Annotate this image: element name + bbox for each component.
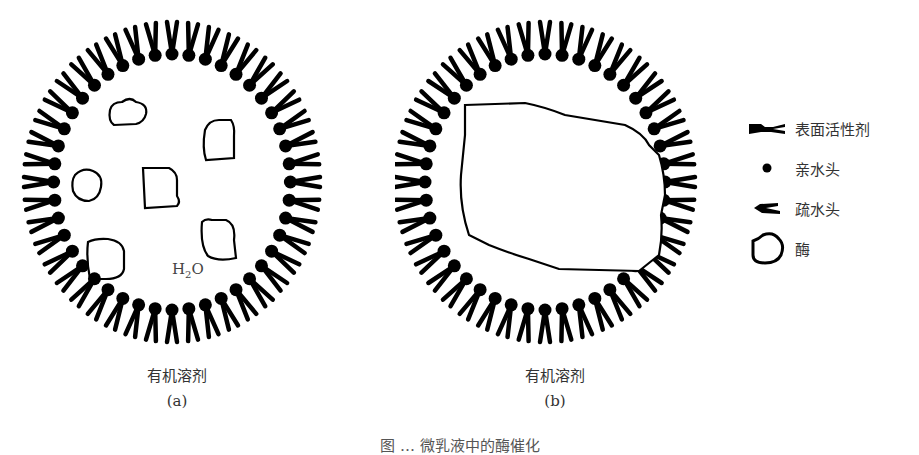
hydrophobic-tail-icon (188, 309, 189, 341)
panel-label-b: (b) (475, 392, 635, 410)
enzyme-icon (461, 103, 665, 271)
enzyme-icon (204, 120, 234, 160)
enzymes (72, 99, 236, 279)
legend-label: 酶 (795, 238, 810, 259)
reverse-micelle-b (395, 10, 715, 350)
legend: 表面活性剂 亲水头 疏水头 酶 (745, 108, 915, 268)
hydrophobic-tail-icon (745, 190, 789, 226)
surfactant-icon (745, 110, 789, 146)
hydrophobic-tail-icon (528, 23, 529, 55)
enzyme-icon (110, 99, 147, 125)
legend-item-surfactant: 表面活性剂 (745, 108, 915, 148)
legend-item-hydrophobic-tail: 疏水头 (745, 188, 915, 228)
hydrophobic-tail-icon (561, 309, 562, 341)
surfactant-ring (24, 22, 320, 342)
enzyme-icon (202, 219, 236, 259)
hydrophilic-head-icon (745, 150, 789, 186)
micelle-diagram-a (20, 10, 340, 350)
panel-label-a: (a) (97, 392, 257, 410)
solvent-label-a: 有机溶剂 (97, 364, 257, 385)
micelle-diagram-b (395, 10, 715, 350)
enzyme-icon (745, 230, 789, 266)
solvent-label-b: 有机溶剂 (475, 364, 635, 385)
legend-label: 疏水头 (795, 198, 840, 219)
figure-caption: 图 … 微乳液中的酶催化 (300, 434, 620, 455)
legend-item-hydrophilic-head: 亲水头 (745, 148, 915, 188)
legend-label: 表面活性剂 (795, 118, 870, 139)
legend-label: 亲水头 (795, 158, 840, 179)
legend-item-enzyme: 酶 (745, 228, 915, 268)
enzyme-icon (72, 170, 101, 201)
reverse-micelle-a: H2O (20, 10, 340, 350)
hydrophobic-tail-icon (155, 23, 156, 55)
water-label: H2O (172, 260, 204, 280)
enzyme-icon (143, 168, 179, 208)
